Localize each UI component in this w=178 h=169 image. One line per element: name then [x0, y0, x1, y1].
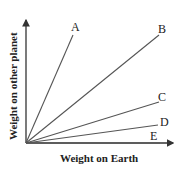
line-label-e: E [150, 129, 157, 143]
line-label-d: D [160, 115, 169, 129]
planet-lines: ABCDE [26, 20, 169, 143]
x-axis-label: Weight on Earth [60, 152, 138, 164]
weight-diagram: ABCDE Weight on Earth Weight on other pl… [0, 0, 178, 169]
line-label-a: A [71, 20, 80, 34]
y-axis-label: Weight on other planet [7, 32, 19, 140]
line-c [26, 102, 159, 143]
line-label-c: C [158, 90, 166, 104]
line-b [26, 35, 159, 143]
line-a [26, 35, 73, 143]
line-label-b: B [158, 22, 166, 36]
line-d [26, 125, 158, 143]
